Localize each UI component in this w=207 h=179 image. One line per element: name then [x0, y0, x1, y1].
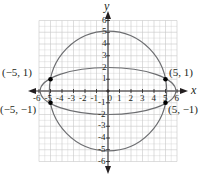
point-label: (−5, −1) — [0, 104, 36, 115]
x-tick-label: 3 — [140, 94, 145, 103]
x-tick-label: 2 — [129, 94, 134, 103]
x-tick-label: -6 — [33, 94, 41, 103]
point-label: (5, 1) — [169, 67, 193, 78]
y-tick-label: -1 — [98, 98, 106, 107]
y-tick-label: -3 — [98, 121, 106, 130]
x-tick-label: 5 — [163, 94, 168, 103]
y-axis-label: y — [104, 0, 109, 12]
point-label: (−5, 1) — [2, 67, 32, 78]
x-tick-label: -2 — [79, 94, 87, 103]
y-tick-label: 1 — [102, 74, 107, 83]
y-tick-label: 4 — [102, 39, 107, 48]
y-tick-label: 3 — [102, 51, 107, 60]
x-tick-label: -1 — [91, 94, 99, 103]
x-tick-label: -5 — [45, 94, 53, 103]
x-tick-label: -4 — [56, 94, 64, 103]
y-tick-label: -4 — [98, 133, 106, 142]
data-point — [163, 77, 168, 82]
data-point — [48, 77, 53, 82]
x-axis-arrow-right-icon — [180, 88, 188, 94]
y-tick-label: 6 — [102, 16, 107, 25]
y-tick-label: -6 — [98, 157, 106, 166]
x-tick-label: 4 — [152, 94, 157, 103]
x-axis-label: x — [191, 84, 196, 96]
y-axis-arrow-down-icon — [105, 166, 111, 174]
x-tick-label: 0 — [108, 94, 113, 103]
point-label: (5, −1) — [168, 104, 198, 115]
x-tick-label: 1 — [117, 94, 122, 103]
x-tick-label: 6 — [175, 94, 180, 103]
y-tick-label: -5 — [98, 145, 106, 154]
y-tick-label: -2 — [98, 110, 106, 119]
x-tick-label: -3 — [68, 94, 76, 103]
y-tick-label: 2 — [102, 63, 107, 72]
y-tick-label: 5 — [102, 27, 107, 36]
